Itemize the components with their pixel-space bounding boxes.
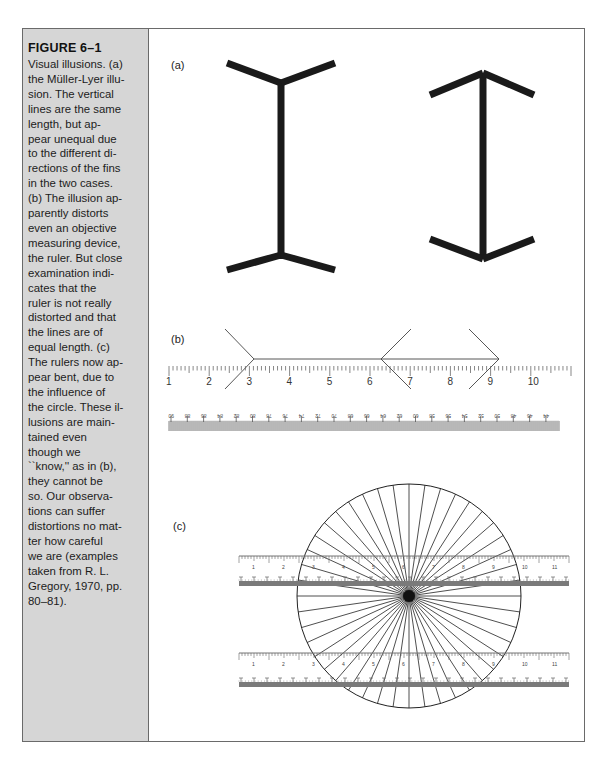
svg-text:58: 58 <box>429 413 435 419</box>
illusion-illustrations: (a) (b <box>149 29 585 743</box>
caption-line: ruler is not really <box>28 297 112 309</box>
ruler-number: 7 <box>407 376 413 387</box>
svg-text:50: 50 <box>494 413 500 419</box>
svg-text:11: 11 <box>552 661 557 667</box>
ruler-number: 8 <box>447 376 453 387</box>
caption-line: ter how careful <box>28 535 103 547</box>
figure-caption: Visual illusions. (a)the Müller-Lyer ill… <box>28 57 142 609</box>
caption-line: parently distorts <box>28 207 108 219</box>
ruler-c-bottom: 1234567891011 <box>239 653 569 667</box>
fins-overlay <box>225 329 499 389</box>
svg-text:11: 11 <box>552 564 557 570</box>
svg-text:6: 6 <box>402 661 405 667</box>
svg-text:5: 5 <box>372 564 375 570</box>
svg-text:6: 6 <box>402 564 405 570</box>
svg-text:4: 4 <box>342 661 345 667</box>
caption-line: ``know,'' as in (b), <box>28 460 117 472</box>
figure-label: FIGURE 6–1 <box>28 41 142 56</box>
panel-b: (b) 12345678910 908886848280787674727068… <box>166 329 571 431</box>
caption-line: tained even <box>28 431 87 443</box>
ruler-b: 12345678910 <box>166 366 571 387</box>
caption-line: length, but ap- <box>28 118 101 130</box>
caption-line: they cannot be <box>28 475 103 487</box>
svg-text:72: 72 <box>315 413 321 419</box>
panel-c-label: (c) <box>173 520 186 532</box>
ruler-number: 9 <box>488 376 494 387</box>
illustration-area: (a) (b <box>149 29 585 741</box>
ruler-number: 3 <box>246 376 252 387</box>
svg-text:82: 82 <box>233 413 239 419</box>
svg-text:52: 52 <box>478 413 484 419</box>
svg-text:10: 10 <box>522 661 528 667</box>
ruler-number: 2 <box>206 376 212 387</box>
ruler-number: 6 <box>367 376 373 387</box>
svg-text:7: 7 <box>432 661 435 667</box>
caption-line: lusions are main- <box>28 416 115 428</box>
muller-lyer-fins-out <box>227 63 335 270</box>
caption-line: (b) The illusion ap- <box>28 192 122 204</box>
caption-line: we are (examples <box>28 550 118 562</box>
caption-line: the influence of <box>28 386 105 398</box>
caption-line: to the different di- <box>28 147 116 159</box>
svg-text:86: 86 <box>201 413 207 419</box>
caption-line: though we <box>28 446 81 458</box>
svg-text:10: 10 <box>522 564 528 570</box>
caption-line: The rulers now ap- <box>28 356 123 368</box>
ruler-c-bottom-bar <box>239 678 569 687</box>
svg-text:8: 8 <box>462 661 465 667</box>
svg-text:9: 9 <box>492 661 495 667</box>
svg-text:46: 46 <box>527 413 533 419</box>
caption-line: the Müller-Lyer illu- <box>28 73 124 85</box>
caption-line: pear unequal due <box>28 133 117 145</box>
caption-line: distorted and that <box>28 311 116 323</box>
figure-frame: FIGURE 6–1 Visual illusions. (a)the Müll… <box>22 28 585 742</box>
caption-line: rections of the fins <box>28 162 120 174</box>
panel-a: (a) <box>171 59 534 270</box>
svg-text:90: 90 <box>168 413 174 419</box>
ruler-b-inverted: 9088868482807876747270686664626058565452… <box>168 413 559 431</box>
svg-text:3: 3 <box>312 564 315 570</box>
svg-text:2: 2 <box>282 661 285 667</box>
svg-text:64: 64 <box>380 413 386 419</box>
svg-text:84: 84 <box>217 413 223 419</box>
ruler-number: 4 <box>287 376 293 387</box>
svg-text:76: 76 <box>282 413 288 419</box>
caption-line: in the two cases. <box>28 177 113 189</box>
muller-lyer-fins-in <box>430 73 534 259</box>
caption-line: the circle. These il- <box>28 401 123 413</box>
panel-c: (c) 1234567891011 1234567891011 <box>173 484 569 708</box>
svg-text:8: 8 <box>462 564 465 570</box>
caption-sidebar: FIGURE 6–1 Visual illusions. (a)the Müll… <box>23 29 149 741</box>
caption-line: lines are the same <box>28 103 121 115</box>
svg-text:74: 74 <box>299 413 305 419</box>
panel-a-label: (a) <box>171 59 184 71</box>
ruler-number: 5 <box>327 376 333 387</box>
caption-line: taken from R. L. <box>28 565 109 577</box>
svg-text:3: 3 <box>312 661 315 667</box>
caption-line: pear bent, due to <box>28 371 114 383</box>
caption-line: sion. The vertical <box>28 88 114 100</box>
svg-text:48: 48 <box>511 413 517 419</box>
caption-line: distortions no mat- <box>28 520 122 532</box>
svg-text:4: 4 <box>342 564 345 570</box>
svg-text:78: 78 <box>266 413 272 419</box>
panel-b-label: (b) <box>171 333 184 345</box>
caption-line: examination indi- <box>28 267 114 279</box>
svg-text:56: 56 <box>445 413 451 419</box>
svg-text:5: 5 <box>372 661 375 667</box>
svg-text:44: 44 <box>543 413 549 419</box>
caption-line: equal length. (c) <box>28 341 110 353</box>
svg-text:1: 1 <box>252 661 255 667</box>
caption-line: cates that the <box>28 282 96 294</box>
svg-text:1: 1 <box>252 564 255 570</box>
svg-text:62: 62 <box>396 413 402 419</box>
svg-text:60: 60 <box>413 413 419 419</box>
caption-line: Gregory, 1970, pp. <box>28 580 122 592</box>
caption-line: tions can suffer <box>28 505 105 517</box>
caption-line: the ruler. But close <box>28 252 122 264</box>
svg-text:80: 80 <box>250 413 256 419</box>
svg-text:2: 2 <box>282 564 285 570</box>
svg-text:88: 88 <box>185 413 191 419</box>
caption-line: so. Our observa- <box>28 490 113 502</box>
caption-line: even an objective <box>28 222 117 234</box>
